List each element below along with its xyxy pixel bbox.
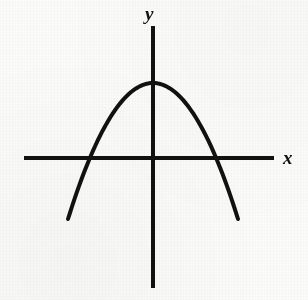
coordinate-plot bbox=[0, 0, 308, 300]
parabola-figure: y x bbox=[0, 0, 308, 300]
y-axis-label: y bbox=[145, 4, 153, 23]
x-axis-label: x bbox=[283, 148, 293, 167]
